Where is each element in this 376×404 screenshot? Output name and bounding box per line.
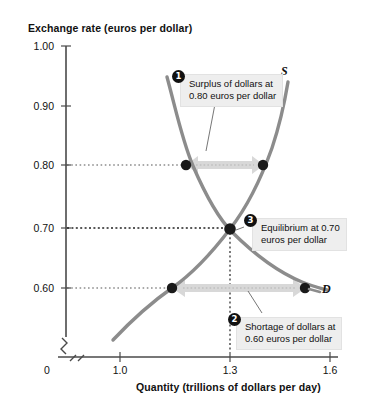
y-tick-label-1.00: 1.00	[10, 40, 54, 52]
demand-curve	[167, 77, 327, 290]
leader-line-1	[206, 104, 215, 151]
x-tick-label-1.6: 1.6	[310, 364, 350, 376]
callout-shortage-line1: Shortage of dollars at	[245, 321, 335, 333]
callout-equilibrium: Equilibrium at 0.70 euros per dollar	[252, 218, 347, 251]
callout-shortage-line2: 0.60 euros per dollar	[245, 333, 335, 345]
x-tick-label-1.3: 1.3	[210, 364, 250, 376]
y-axis-break-icon	[61, 338, 67, 354]
callout-shortage: Shortage of dollars at 0.60 euros per do…	[236, 317, 342, 350]
marker-demand-at-0.80	[181, 160, 191, 170]
y-tick-label-0.80: 0.80	[10, 159, 54, 171]
supply-curve	[113, 82, 288, 340]
x-axis-break-icon	[70, 355, 84, 361]
callout-badge-1: 1	[172, 70, 185, 83]
y-tick-label-0.60: 0.60	[10, 282, 54, 294]
x-tick-label-0: 0	[27, 364, 67, 376]
callout-equilibrium-line2: euros per dollar	[261, 234, 340, 246]
callout-surplus: Surplus of dollars at 0.80 euros per dol…	[180, 74, 283, 107]
x-axis-title: Quantity (trillions of dollars per day)	[136, 381, 321, 393]
callout-surplus-line1: Surplus of dollars at	[189, 78, 276, 90]
shortage-arrow	[172, 279, 306, 297]
callout-badge-3: 3	[244, 214, 257, 227]
leader-line-2	[248, 291, 262, 313]
leader-line-3	[236, 227, 244, 230]
callout-surplus-line2: 0.80 euros per dollar	[189, 90, 276, 102]
marker-supply-at-0.60	[167, 283, 177, 293]
x-tick-label-1.0: 1.0	[100, 364, 140, 376]
callout-badge-2: 2	[228, 313, 241, 326]
marker-equilibrium	[224, 223, 236, 235]
demand-curve-label: D	[322, 282, 331, 297]
exchange-rate-supply-demand-figure: Exchange rate (euros per dollar)	[0, 0, 376, 404]
callout-equilibrium-line1: Equilibrium at 0.70	[261, 222, 340, 234]
y-tick-label-0.90: 0.90	[10, 100, 54, 112]
marker-supply-at-0.80	[258, 160, 268, 170]
surplus-arrow	[186, 156, 264, 174]
y-tick-label-0.70: 0.70	[10, 222, 54, 234]
leader-line-demand-label	[309, 289, 320, 292]
